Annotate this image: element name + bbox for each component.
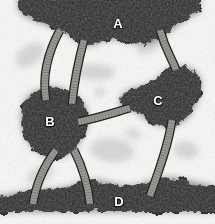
- micrograph-canvas: [0, 0, 215, 224]
- overlay-grain: [0, 0, 215, 224]
- micrograph-figure: ABCD: [0, 0, 215, 224]
